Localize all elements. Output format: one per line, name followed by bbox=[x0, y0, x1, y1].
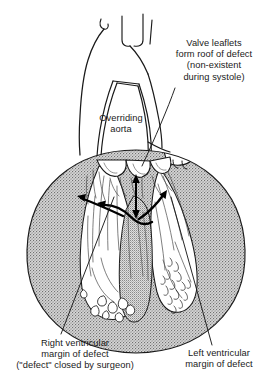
great-vessel-branches bbox=[100, 14, 152, 46]
label-right-ventricular-margin: Right ventricular margin of defect ("def… bbox=[0, 338, 150, 372]
label-left-ventricular-margin: Left ventricular margin of defect bbox=[166, 348, 272, 370]
label-overriding-aorta: Overriding aorta bbox=[86, 113, 156, 135]
illustration-figure: Valve leaflets form roof of defect (non-… bbox=[0, 0, 272, 385]
label-valve-leaflets: Valve leaflets form roof of defect (non-… bbox=[156, 38, 272, 83]
